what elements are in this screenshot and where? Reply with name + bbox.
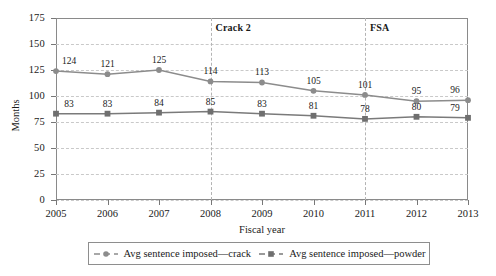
y-tick-mark-150 bbox=[51, 44, 56, 45]
y-tick-label-75: 75 bbox=[0, 117, 45, 128]
data-label: 125 bbox=[148, 56, 170, 66]
data-label: 85 bbox=[200, 98, 222, 108]
y-tick-mark-75 bbox=[51, 122, 56, 123]
data-label: 84 bbox=[148, 99, 170, 109]
y-tick-label-50: 50 bbox=[0, 143, 45, 154]
x-tick-mark-2013 bbox=[468, 200, 469, 205]
x-tick-mark-2010 bbox=[314, 200, 315, 205]
y-tick-mark-50 bbox=[51, 148, 56, 149]
annotation-label-crack-2: Crack 2 bbox=[216, 22, 252, 33]
annotation-label-fsa: FSA bbox=[370, 22, 390, 33]
y-tick-label-100: 100 bbox=[0, 91, 45, 102]
legend-label-powder: Avg sentence imposed—powder bbox=[289, 248, 425, 259]
x-tick-label-2013: 2013 bbox=[445, 208, 491, 219]
data-label: 83 bbox=[97, 100, 119, 110]
x-tick-mark-2006 bbox=[108, 200, 109, 205]
x-tick-label-2010: 2010 bbox=[291, 208, 337, 219]
x-tick-label-2009: 2009 bbox=[239, 208, 285, 219]
x-tick-mark-2007 bbox=[159, 200, 160, 205]
data-label: 121 bbox=[97, 60, 119, 70]
y-tick-label-125: 125 bbox=[0, 65, 45, 76]
y-tick-label-25: 25 bbox=[0, 169, 45, 180]
y-tick-mark-175 bbox=[51, 18, 56, 19]
data-label: 96 bbox=[444, 86, 466, 96]
gridline-y-25 bbox=[56, 174, 468, 175]
x-tick-label-2008: 2008 bbox=[188, 208, 234, 219]
x-tick-mark-2009 bbox=[262, 200, 263, 205]
legend-marker-circle-icon bbox=[93, 249, 119, 259]
x-axis-title: Fiscal year bbox=[56, 224, 468, 235]
x-tick-label-2012: 2012 bbox=[394, 208, 440, 219]
data-label: 95 bbox=[406, 87, 428, 97]
y-tick-label-0: 0 bbox=[0, 195, 45, 206]
x-tick-label-2007: 2007 bbox=[136, 208, 182, 219]
data-label: 80 bbox=[406, 103, 428, 113]
data-label: 78 bbox=[354, 105, 376, 115]
x-tick-mark-2005 bbox=[56, 200, 57, 205]
y-tick-label-175: 175 bbox=[0, 13, 45, 24]
data-label: 79 bbox=[444, 104, 466, 114]
x-tick-label-2005: 2005 bbox=[33, 208, 79, 219]
x-tick-label-2011: 2011 bbox=[342, 208, 388, 219]
legend-entry-powder[interactable]: Avg sentence imposed—powder bbox=[258, 248, 425, 259]
data-label: 81 bbox=[303, 102, 325, 112]
data-label: 113 bbox=[251, 68, 273, 78]
y-axis-title: Months bbox=[10, 86, 21, 146]
x-tick-mark-2012 bbox=[417, 200, 418, 205]
data-label: 83 bbox=[58, 100, 80, 110]
x-tick-mark-2011 bbox=[365, 200, 366, 205]
line-chart: 0255075100125150175 20052006200720082009… bbox=[0, 0, 496, 276]
data-label: 83 bbox=[251, 100, 273, 110]
data-label: 101 bbox=[354, 81, 376, 91]
data-label: 114 bbox=[200, 67, 222, 77]
data-label: 105 bbox=[303, 77, 325, 87]
y-tick-mark-100 bbox=[51, 96, 56, 97]
y-tick-mark-25 bbox=[51, 174, 56, 175]
legend-marker-square-icon bbox=[258, 249, 284, 259]
gridline-y-75 bbox=[56, 122, 468, 123]
data-label: 124 bbox=[58, 57, 80, 67]
annotation-vline-crack-2 bbox=[211, 18, 212, 200]
legend-label-crack: Avg sentence imposed—crack bbox=[124, 248, 252, 259]
y-tick-label-150: 150 bbox=[0, 39, 45, 50]
y-tick-mark-125 bbox=[51, 70, 56, 71]
gridline-y-50 bbox=[56, 148, 468, 149]
x-tick-mark-2008 bbox=[211, 200, 212, 205]
chart-legend: Avg sentence imposed—crack Avg sentence … bbox=[88, 242, 430, 265]
legend-entry-crack[interactable]: Avg sentence imposed—crack bbox=[93, 248, 252, 259]
x-tick-label-2006: 2006 bbox=[85, 208, 131, 219]
gridline-y-150 bbox=[56, 44, 468, 45]
